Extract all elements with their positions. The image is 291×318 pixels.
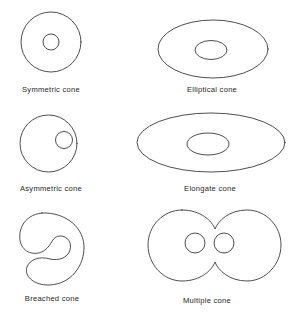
caption-symmetric-cone: Symmetric cone [22,86,80,94]
caption-asymmetric-cone: Asymmetric cone [20,185,82,193]
multiple-cone-vent-right [214,233,234,253]
caption-multiple-cone: Multiple cone [183,297,231,305]
shape-multiple-cone [148,210,281,281]
caption-breached-cone: Breached cone [25,295,79,303]
multiple-cone-vent-left [185,233,205,253]
shape-elliptical-cone [158,20,268,78]
shape-symmetric-cone [21,12,81,72]
symmetric-cone-vent [43,34,59,50]
diagram-canvas [0,0,291,318]
caption-elongate-cone: Elongate cone [184,185,236,193]
shape-elongate-cone [137,113,285,172]
shape-breached-cone [20,213,84,285]
caption-elliptical-cone: Elliptical cone [187,86,237,94]
shape-asymmetric-cone [20,115,77,172]
elongate-cone-vent [187,133,229,155]
elliptical-cone-vent [195,41,227,60]
cone-morphology-figure: Symmetric cone Elliptical cone Asymmetri… [0,0,291,318]
breached-cone-outline [20,213,84,285]
asymmetric-cone-vent [56,132,73,149]
